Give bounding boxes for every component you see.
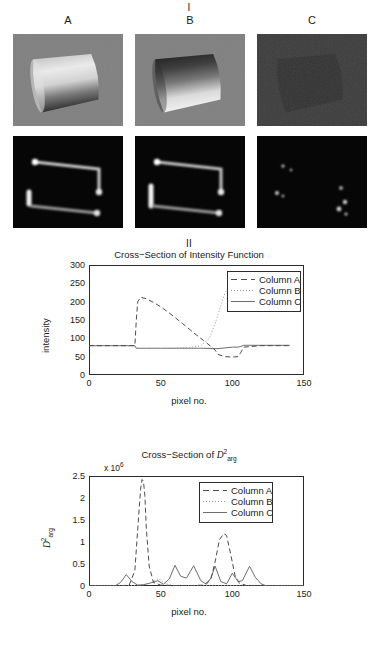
image-panel-c-intensity xyxy=(257,34,367,126)
column-label-b: B xyxy=(130,14,250,26)
intensity-ytick-250: 250 xyxy=(55,278,85,288)
intensity-ytick-300: 300 xyxy=(55,260,85,270)
intensity-ytick-0: 0 xyxy=(55,370,85,380)
intensity-ytick-150: 150 xyxy=(55,315,85,325)
legend-row-column-b: Column B xyxy=(230,285,297,296)
darg-exponent-power: 6 xyxy=(120,461,124,468)
image-panel-b-intensity xyxy=(135,34,245,126)
intensity-chart-title: Cross−Section of Intensity Function xyxy=(0,249,378,260)
column-label-a: A xyxy=(8,14,128,26)
legend-row-column-b: Column B xyxy=(202,496,269,507)
darg-title-symbol: D xyxy=(217,450,224,460)
darg-ytick-0p5: 0.5 xyxy=(55,559,85,569)
legend-label-column-b: Column B xyxy=(228,496,273,507)
legend-label-column-a: Column A xyxy=(256,274,300,285)
darg-ylabel-symbol: D xyxy=(42,541,52,548)
image-panel-c-derivative xyxy=(257,136,367,228)
intensity-xtick-150: 150 xyxy=(296,378,311,388)
legend-label-column-c: Column C xyxy=(228,507,273,518)
darg-xlabel: pixel no. xyxy=(0,606,378,617)
darg-xtick-100: 100 xyxy=(225,589,240,599)
series-column-b xyxy=(89,579,304,586)
darg-ytick-2: 2 xyxy=(55,493,85,503)
intensity-ylabel: intensity xyxy=(40,318,51,353)
darg-ytick-2p5: 2.5 xyxy=(55,471,85,481)
legend-key-dotted-icon xyxy=(202,496,228,507)
image-panel-a-derivative xyxy=(13,136,123,228)
legend-key-dotted-icon xyxy=(230,285,256,296)
intensity-xtick-100: 100 xyxy=(225,378,240,388)
intensity-xtick-50: 50 xyxy=(156,378,166,388)
darg-ytick-0: 0 xyxy=(55,581,85,591)
darg-exponent-text: x 10 xyxy=(104,463,120,473)
darg-title-prefix: Cross−Section of xyxy=(141,449,216,460)
darg-chart-title: Cross−Section of D2arg xyxy=(0,448,378,462)
darg-exponent-label: x 106 xyxy=(104,461,124,473)
intensity-chart: Cross−Section of Intensity Function 300 … xyxy=(0,249,378,424)
legend-key-solid-icon xyxy=(230,296,256,307)
darg-xtick-50: 50 xyxy=(156,589,166,599)
column-label-c: C xyxy=(252,14,372,26)
darg-chart: Cross−Section of D2arg x 106 2.5 2 1.5 1… xyxy=(0,448,378,643)
legend-label-column-b: Column B xyxy=(256,285,301,296)
part-two-label: II xyxy=(0,238,378,249)
darg-title-sub: arg xyxy=(227,455,236,462)
intensity-ytick-200: 200 xyxy=(55,297,85,307)
legend-row-column-a: Column A xyxy=(230,274,297,285)
legend-row-column-c: Column C xyxy=(230,296,297,307)
darg-ylabel-sup: 2 xyxy=(40,538,47,542)
legend-row-column-c: Column C xyxy=(202,507,269,518)
legend-label-column-a: Column A xyxy=(228,485,272,496)
image-panel-a-intensity xyxy=(13,34,123,126)
image-panel-b-derivative xyxy=(135,136,245,228)
legend-label-column-c: Column C xyxy=(256,296,301,307)
darg-title-sup: 2 xyxy=(224,448,228,455)
series-column-c xyxy=(89,565,304,586)
darg-xtick-0: 0 xyxy=(86,589,91,599)
legend-key-dashed-icon xyxy=(202,485,228,496)
part-one-label: I xyxy=(0,2,378,13)
figure-root: I A B C xyxy=(0,0,378,649)
intensity-ytick-100: 100 xyxy=(55,333,85,343)
darg-ytick-1: 1 xyxy=(55,537,85,547)
intensity-xlabel: pixel no. xyxy=(0,395,378,406)
darg-ytick-1p5: 1.5 xyxy=(55,515,85,525)
intensity-chart-legend: Column A Column B Column C xyxy=(227,271,301,312)
intensity-xtick-0: 0 xyxy=(86,378,91,388)
intensity-ytick-50: 50 xyxy=(55,352,85,362)
legend-key-dashed-icon xyxy=(230,274,256,285)
darg-xtick-150: 150 xyxy=(296,589,311,599)
darg-chart-legend: Column A Column B Column C xyxy=(199,482,273,523)
darg-ylabel-sub: arg xyxy=(47,528,54,537)
darg-ylabel: D2arg xyxy=(40,528,54,548)
legend-key-solid-icon xyxy=(202,507,228,518)
legend-row-column-a: Column A xyxy=(202,485,269,496)
